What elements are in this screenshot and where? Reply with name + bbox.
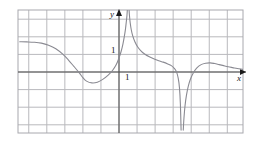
y-axis-tick-label-1: 1 (111, 46, 116, 55)
x-axis-tick-label-1: 1 (125, 73, 130, 82)
function-plot (0, 0, 260, 149)
graph-figure: y x 1 1 (0, 0, 260, 149)
y-axis-label: y (110, 10, 114, 19)
x-axis-label: x (237, 74, 241, 83)
